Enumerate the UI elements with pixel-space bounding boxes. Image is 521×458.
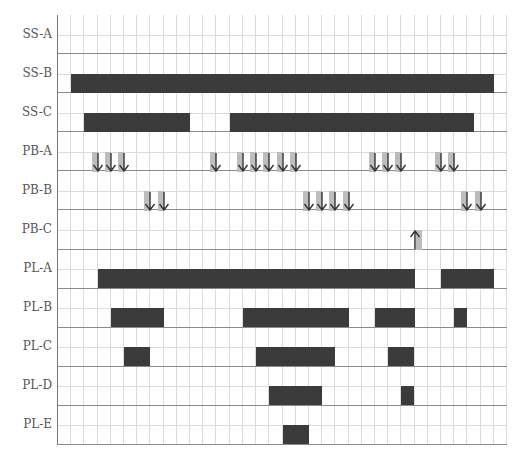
row-label: PL-E bbox=[0, 417, 52, 431]
row-label: SS-A bbox=[0, 27, 52, 41]
chart-grid bbox=[57, 15, 507, 445]
down-arrow-icon bbox=[460, 191, 474, 211]
down-arrow-icon bbox=[104, 152, 118, 172]
row-label: SS-C bbox=[0, 105, 52, 119]
signal-bar bbox=[71, 74, 494, 93]
row-separator bbox=[58, 53, 507, 54]
timing-chart: SS-ASS-BSS-CPB-APB-BPB-CPL-APL-BPL-CPL-D… bbox=[0, 0, 521, 458]
signal-bar bbox=[243, 308, 349, 327]
down-arrow-icon bbox=[381, 152, 395, 172]
row-separator bbox=[58, 327, 507, 328]
down-arrow-icon bbox=[368, 152, 382, 172]
down-arrow-icon bbox=[394, 152, 408, 172]
grid-midline bbox=[58, 230, 507, 231]
row-label: PL-D bbox=[0, 378, 52, 392]
signal-bar bbox=[111, 308, 164, 327]
signal-bar bbox=[401, 386, 414, 405]
row-label: PL-B bbox=[0, 300, 52, 314]
down-arrow-icon bbox=[117, 152, 131, 172]
signal-bar bbox=[230, 113, 474, 132]
row-separator bbox=[58, 444, 507, 445]
down-arrow-icon bbox=[302, 191, 316, 211]
grid-midline bbox=[58, 191, 507, 192]
down-arrow-icon bbox=[447, 152, 461, 172]
down-arrow-icon bbox=[434, 152, 448, 172]
down-arrow-icon bbox=[315, 191, 329, 211]
signal-bar bbox=[84, 113, 190, 132]
signal-bar bbox=[454, 308, 467, 327]
signal-bar bbox=[269, 386, 322, 405]
signal-bar bbox=[98, 269, 415, 288]
down-arrow-icon bbox=[342, 191, 356, 211]
down-arrow-icon bbox=[474, 191, 488, 211]
row-separator bbox=[58, 249, 507, 250]
down-arrow-icon bbox=[249, 152, 263, 172]
row-separator bbox=[58, 288, 507, 289]
down-arrow-icon bbox=[91, 152, 105, 172]
down-arrow-icon bbox=[289, 152, 303, 172]
down-arrow-icon bbox=[276, 152, 290, 172]
signal-bar bbox=[256, 347, 335, 366]
down-arrow-icon bbox=[143, 191, 157, 211]
row-separator bbox=[58, 366, 507, 367]
signal-bar bbox=[388, 347, 414, 366]
row-separator bbox=[58, 209, 507, 210]
down-arrow-icon bbox=[157, 191, 171, 211]
signal-bar bbox=[375, 308, 415, 327]
row-label: PB-B bbox=[0, 183, 52, 197]
row-label: PB-A bbox=[0, 144, 52, 158]
grid-midline bbox=[58, 35, 507, 36]
signal-bar bbox=[441, 269, 494, 288]
row-label: PL-C bbox=[0, 339, 52, 353]
row-label: PL-A bbox=[0, 261, 52, 275]
row-separator bbox=[58, 405, 507, 406]
down-arrow-icon bbox=[209, 152, 223, 172]
down-arrow-icon bbox=[236, 152, 250, 172]
signal-bar bbox=[124, 347, 150, 366]
row-label: SS-B bbox=[0, 66, 52, 80]
up-arrow-icon bbox=[408, 230, 422, 250]
down-arrow-icon bbox=[328, 191, 342, 211]
down-arrow-icon bbox=[262, 152, 276, 172]
row-label: PB-C bbox=[0, 222, 52, 236]
signal-bar bbox=[283, 425, 309, 444]
